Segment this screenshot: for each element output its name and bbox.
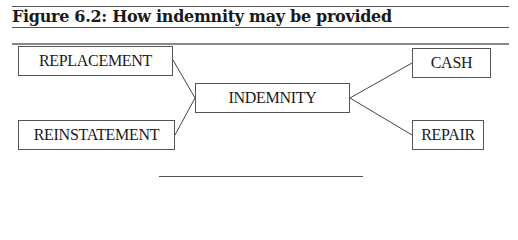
node-label: CASH	[431, 54, 472, 72]
node-replacement: REPLACEMENT	[18, 46, 173, 76]
node-label: INDEMNITY	[229, 89, 317, 107]
node-label: REPAIR	[421, 126, 475, 144]
node-repair: REPAIR	[412, 120, 484, 150]
node-indemnity: INDEMNITY	[195, 83, 350, 113]
node-reinstatement: REINSTATEMENT	[18, 120, 175, 150]
footer-rule	[159, 176, 363, 177]
node-label: REINSTATEMENT	[34, 126, 159, 144]
node-cash: CASH	[412, 48, 491, 78]
node-label: REPLACEMENT	[39, 52, 152, 70]
